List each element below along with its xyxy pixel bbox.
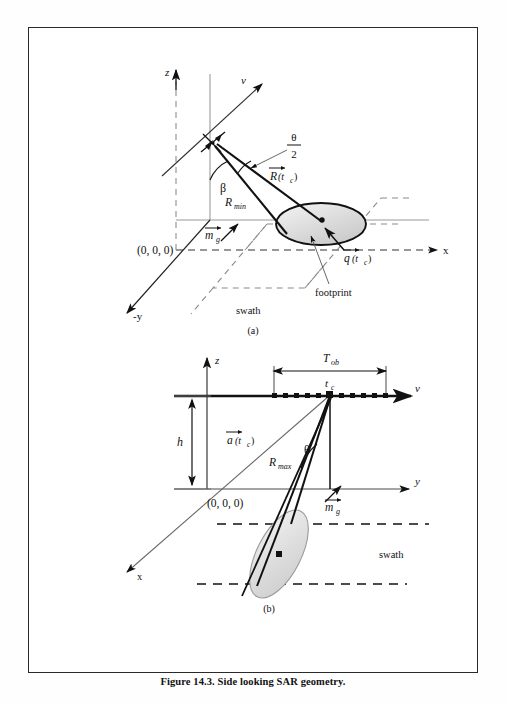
panel-a-diagram: z v x -y (0, 0, 0) β θ 2 R min R [29,28,477,338]
r-min-subscript-a: min [234,202,246,211]
subfigure-b-label: (b) [263,603,275,615]
r-tc-close-a: ) [294,171,297,183]
r-tc-label-a: R (t c ) [269,166,297,185]
r-min-label-a: R min [224,196,246,211]
track-sample-point [272,393,277,398]
r-max-subscript-b: max [278,462,292,471]
track-sample-point [316,393,321,398]
q-tc-close-a: ) [368,253,371,265]
track-sample-point [305,393,310,398]
page-canvas: z v x -y (0, 0, 0) β θ 2 R min R [0,0,509,705]
q-tc-vector-arrowhead-a [355,248,359,252]
swath-label-a: swath [236,305,261,316]
track-sample-point [383,393,388,398]
beta-label-a: β [220,181,226,195]
a-tc-vector-arrowhead-b [238,430,242,434]
velocity-label-a: v [241,74,246,86]
q-tc-args-a: (t [352,253,358,265]
track-sample-point [283,393,288,398]
m-g-label-a: m g [205,226,221,244]
theta-half-leader-a [251,150,287,168]
track-sample-point [372,393,377,398]
figure-caption: Figure 14.3. Side looking SAR geometry. [29,676,477,687]
theta-label-b: θ [304,443,310,457]
panel-b-diagram: z v y x T ob t c h a (t c ) [29,344,477,666]
swath-edge-extend-4-a [191,288,213,314]
theta-half-numerator-a: θ [291,131,296,143]
m-g-subscript-a: g [216,235,220,244]
r-tc-ray-a [217,144,321,221]
r-tc-vector-arrowhead-a [281,166,285,170]
track-sample-point-center [326,391,333,398]
swath-label-b: swath [379,549,404,560]
origin-label-b: (0, 0, 0) [207,497,244,510]
footprint-label-a: footprint [315,287,352,298]
axis-x-label-b: x [137,571,143,582]
r-tc-args-a: (t [278,171,284,183]
figure-frame: z v x -y (0, 0, 0) β θ 2 R min R [28,27,478,673]
track-sample-point [361,393,366,398]
t-c-subscript-b: c [331,383,335,392]
t-ob-subscript-b: ob [331,358,339,367]
origin-label-a: (0, 0, 0) [137,244,174,257]
track-sample-point [350,393,355,398]
r-tc-symbol-a: R [269,170,277,182]
axis-z-label-b: z [214,354,220,366]
axis-y-label-b: y [414,475,420,487]
m-g-symbol-a: m [205,229,213,241]
m-g-vector-arrowhead-b [337,498,341,502]
a-tc-args-b: (t [235,435,241,447]
t-ob-label-b: T ob [323,352,339,367]
m-g-subscript-b: g [336,507,340,516]
axis-z-label-a: z [164,66,170,78]
footprint-ellipse-a [276,203,366,245]
theta-half-label-a: θ 2 [287,131,301,160]
subfigure-a-label: (a) [247,325,258,337]
footprint-center-point-b [276,551,282,557]
axis-neg-y-a [127,220,210,313]
r-min-symbol-a: R [224,196,232,208]
beta-angle-arc-a [210,161,228,180]
r-max-label-b: R max [268,456,292,471]
q-tc-label-a: q (t c ) [343,248,371,267]
velocity-label-b: v [415,382,420,394]
axis-neg-y-label-a: -y [133,310,143,322]
t-ob-symbol-b: T [323,352,331,364]
m-g-symbol-b: m [325,501,333,513]
m-g-label-b: m g [325,498,341,516]
t-c-symbol-b: t [325,377,329,389]
height-label-b: h [177,435,183,449]
track-sample-point [294,393,299,398]
velocity-vector-a [162,84,262,176]
theta-half-denominator-a: 2 [291,148,297,160]
radar-platform-icon [201,132,225,152]
t-c-label-b: t c [325,377,335,392]
axis-x-label-a: x [443,244,449,256]
m-g-vector-arrowhead-a [217,226,221,230]
r-max-symbol-b: R [268,456,276,468]
a-tc-label-b: a (t c ) [226,430,254,449]
q-tc-symbol-a: q [344,252,350,265]
m-g-vector-a [221,224,238,241]
track-sample-point [339,393,344,398]
a-tc-symbol-b: a [227,434,233,446]
a-tc-close-b: ) [251,435,254,447]
